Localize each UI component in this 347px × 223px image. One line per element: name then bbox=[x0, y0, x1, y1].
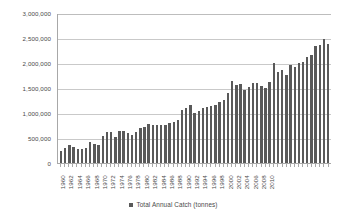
bar bbox=[256, 83, 258, 164]
bar bbox=[298, 63, 300, 164]
tick-mark bbox=[152, 164, 153, 167]
tick-mark bbox=[294, 164, 295, 167]
tick-mark bbox=[177, 164, 178, 167]
bar bbox=[64, 148, 66, 163]
tick-mark bbox=[185, 164, 186, 167]
bar bbox=[235, 85, 237, 163]
tick-mark bbox=[298, 164, 299, 167]
tick-mark bbox=[135, 164, 136, 167]
bar bbox=[323, 39, 325, 163]
tick-mark bbox=[181, 164, 182, 167]
tick-mark bbox=[194, 164, 195, 167]
tick-mark bbox=[248, 164, 249, 167]
tick-mark bbox=[139, 164, 140, 167]
y-axis-tick-label: 3,000,000 bbox=[23, 11, 51, 17]
bar bbox=[314, 46, 316, 164]
bar bbox=[85, 148, 87, 164]
tick-mark bbox=[227, 164, 228, 167]
bar bbox=[223, 100, 225, 164]
bar bbox=[306, 57, 308, 163]
tick-mark bbox=[269, 164, 270, 167]
bar bbox=[243, 90, 245, 163]
tick-mark bbox=[206, 164, 207, 167]
tick-mark bbox=[273, 164, 274, 167]
bar bbox=[206, 107, 208, 163]
bar bbox=[89, 142, 91, 163]
bar bbox=[185, 108, 187, 163]
bar-slot bbox=[326, 14, 330, 163]
x-axis-tick bbox=[326, 164, 330, 167]
bar bbox=[214, 105, 216, 163]
plot-area bbox=[57, 14, 331, 164]
tick-mark bbox=[231, 164, 232, 167]
tick-mark bbox=[131, 164, 132, 167]
bar bbox=[173, 122, 175, 164]
bar bbox=[152, 125, 154, 164]
bar bbox=[281, 70, 283, 163]
bar bbox=[231, 81, 233, 163]
bar bbox=[273, 63, 275, 163]
tick-mark bbox=[319, 164, 320, 167]
tick-mark bbox=[118, 164, 119, 167]
tick-mark bbox=[261, 164, 262, 167]
bar bbox=[227, 93, 229, 163]
bar bbox=[319, 45, 321, 164]
tick-mark bbox=[101, 164, 102, 167]
bar bbox=[202, 108, 204, 163]
tick-mark bbox=[315, 164, 316, 167]
tick-mark bbox=[198, 164, 199, 167]
y-axis-tick-label: 2,500,000 bbox=[23, 36, 51, 42]
bar bbox=[72, 147, 74, 164]
tick-mark bbox=[64, 164, 65, 167]
legend-swatch-icon bbox=[129, 203, 133, 207]
tick-mark bbox=[160, 164, 161, 167]
bar bbox=[114, 137, 116, 164]
bar bbox=[327, 44, 329, 163]
bar bbox=[210, 106, 212, 163]
tick-mark bbox=[240, 164, 241, 167]
bar bbox=[81, 149, 83, 163]
bar bbox=[218, 102, 220, 164]
tick-mark bbox=[81, 164, 82, 167]
bar bbox=[60, 151, 62, 163]
tick-mark bbox=[76, 164, 77, 167]
x-axis: 1960196219641966196819701972197419761978… bbox=[57, 168, 331, 194]
tick-mark bbox=[68, 164, 69, 167]
bar bbox=[68, 145, 70, 163]
x-axis-label-slot bbox=[326, 168, 330, 194]
bar bbox=[302, 62, 304, 163]
bar bbox=[135, 132, 137, 163]
tick-mark bbox=[114, 164, 115, 167]
tick-mark bbox=[106, 164, 107, 167]
tick-mark bbox=[219, 164, 220, 167]
bar bbox=[248, 87, 250, 164]
bar bbox=[97, 145, 99, 163]
y-axis: 0500,0001,000,0001,500,0002,000,0002,500… bbox=[0, 0, 54, 170]
bar bbox=[143, 127, 145, 164]
bar bbox=[106, 132, 108, 164]
bars-layer bbox=[58, 14, 331, 163]
bar bbox=[285, 75, 287, 163]
bar bbox=[131, 135, 133, 163]
tick-mark bbox=[265, 164, 266, 167]
y-axis-tick-label: 1,500,000 bbox=[23, 86, 51, 92]
bar bbox=[156, 125, 158, 163]
tick-mark bbox=[127, 164, 128, 167]
y-axis-tick-label: 500,000 bbox=[28, 136, 51, 142]
bar bbox=[177, 120, 179, 163]
bar bbox=[168, 123, 170, 163]
tick-mark bbox=[286, 164, 287, 167]
bar bbox=[310, 55, 312, 164]
bar bbox=[268, 82, 270, 164]
bar bbox=[252, 83, 254, 163]
legend: Total Annual Catch (tonnes) bbox=[0, 202, 347, 208]
bar bbox=[139, 128, 141, 163]
x-axis-ticks bbox=[57, 164, 331, 167]
bar bbox=[193, 113, 195, 163]
tick-mark bbox=[256, 164, 257, 167]
tick-mark bbox=[148, 164, 149, 167]
y-axis-tick-label: 1,000,000 bbox=[23, 111, 51, 117]
bar bbox=[127, 133, 129, 163]
bar bbox=[260, 86, 262, 163]
tick-mark bbox=[235, 164, 236, 167]
